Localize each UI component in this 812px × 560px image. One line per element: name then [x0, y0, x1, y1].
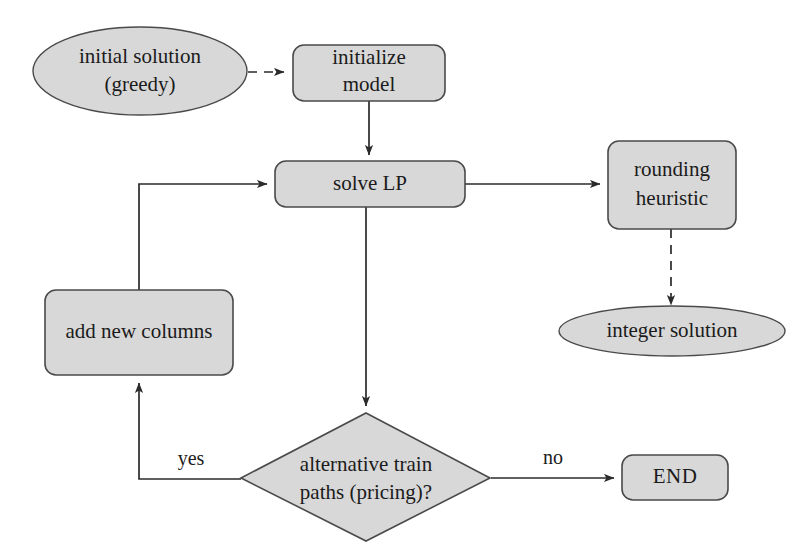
node-add-new-columns[interactable]: add new columns — [45, 290, 233, 375]
node-decision-pricing[interactable]: alternative train paths (pricing)? — [241, 413, 490, 541]
node-rounding-heuristic[interactable]: rounding heuristic — [608, 141, 736, 229]
node-initialize-model-line2: model — [343, 72, 396, 96]
node-rounding-heuristic-line2: heuristic — [636, 186, 708, 210]
node-initial-solution[interactable]: initial solution (greedy) — [33, 27, 247, 115]
node-initial-solution-line1: initial solution — [79, 44, 201, 68]
node-initial-solution-line2: (greedy) — [104, 72, 175, 96]
node-initialize-model-line1: initialize — [332, 45, 405, 69]
node-initialize-model[interactable]: initialize model — [293, 45, 445, 101]
node-solve-lp-label: solve LP — [333, 171, 407, 195]
node-integer-solution-label: integer solution — [606, 318, 738, 342]
node-end[interactable]: END — [622, 455, 728, 500]
node-solve-lp[interactable]: solve LP — [275, 161, 465, 207]
node-end-label: END — [653, 464, 698, 488]
node-add-new-columns-label: add new columns — [66, 319, 213, 343]
node-integer-solution[interactable]: integer solution — [559, 306, 785, 356]
node-decision-pricing-line1: alternative train — [300, 452, 433, 476]
edge-label-yes: yes — [178, 447, 205, 470]
flowchart-canvas: initialize model (dashed) --> solve LP -… — [0, 0, 812, 560]
flowchart-svg: initialize model (dashed) --> solve LP -… — [0, 0, 812, 560]
node-decision-pricing-line2: paths (pricing)? — [300, 480, 432, 504]
edge-add-columns-to-solve-lp — [139, 184, 267, 290]
node-rounding-heuristic-line1: rounding — [634, 157, 710, 181]
edge-label-no: no — [543, 446, 563, 468]
